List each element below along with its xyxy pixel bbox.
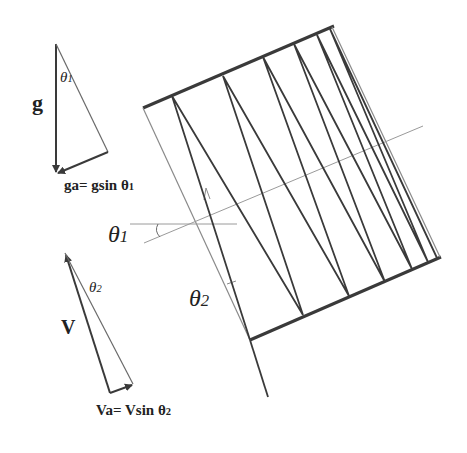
subscript: 2 bbox=[166, 406, 171, 417]
subscript: 2 bbox=[96, 283, 101, 294]
theta-symbol: θ bbox=[189, 285, 201, 311]
slab-axis-line bbox=[144, 126, 423, 243]
theta-symbol: θ bbox=[108, 221, 120, 247]
theta2-small-label: θ2 bbox=[89, 280, 102, 295]
slab-bottom-edge bbox=[250, 257, 441, 340]
subscript: 1 bbox=[67, 73, 72, 84]
incoming-ray bbox=[250, 340, 268, 397]
theta1-angle-arc bbox=[156, 224, 160, 237]
va-component-arrow bbox=[110, 385, 132, 393]
ga-component-arrow bbox=[58, 152, 108, 173]
formula-text: Va= Vsin θ bbox=[96, 402, 166, 418]
slab bbox=[143, 26, 441, 340]
g-label: g bbox=[32, 92, 43, 114]
subscript: 2 bbox=[201, 291, 209, 310]
formula-text: ga= gsin θ bbox=[64, 177, 129, 193]
light-guide-diagram bbox=[0, 0, 467, 453]
ga-formula-label: ga= gsin θ1 bbox=[64, 178, 134, 193]
theta2-large-label: θ2 bbox=[189, 286, 209, 310]
gravity-vector-triangle bbox=[56, 44, 108, 173]
subscript: 1 bbox=[120, 227, 128, 246]
va-formula-label: Va= Vsin θ2 bbox=[96, 403, 171, 418]
subscript: 1 bbox=[129, 181, 134, 192]
v-label: V bbox=[61, 317, 75, 337]
theta1-large-label: θ1 bbox=[108, 222, 128, 246]
theta1-small-label: θ1 bbox=[60, 70, 73, 85]
g-hypotenuse bbox=[56, 44, 108, 152]
zigzag-ray bbox=[172, 29, 437, 340]
